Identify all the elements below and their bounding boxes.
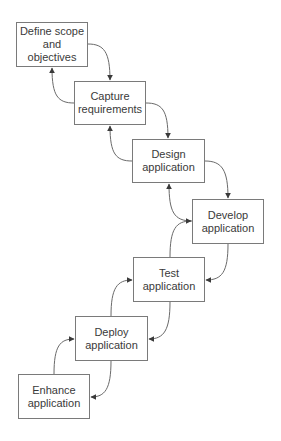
arrow-deploy-to-test [111,280,132,316]
step-develop-application: Develop application [192,199,264,244]
step-enhance-application: Enhance application [18,374,90,419]
step-label: Develop application [202,209,255,235]
arrow-design-to-develop [205,161,228,198]
arrow-develop-to-test [206,244,228,280]
step-label: Enhance application [28,384,81,410]
arrow-define-to-capture [88,44,110,80]
arrow-develop-to-design [169,184,192,221]
step-label: Deploy application [85,326,138,352]
arrow-test-to-develop [170,221,191,257]
arrow-enhance-to-deploy [54,339,74,374]
arrow-deploy-to-enhance [91,361,111,397]
step-capture-requirements: Capture requirements [74,81,146,125]
step-deploy-application: Deploy application [75,316,148,361]
step-define-scope: Define scope and objectives [16,22,88,67]
arrow-capture-to-define [52,68,74,103]
step-test-application: Test application [133,257,205,302]
step-label: Capture requirements [78,90,142,116]
step-label: Test application [143,267,196,293]
step-label: Define scope and objectives [17,25,87,64]
step-label: Design application [142,148,195,174]
arrow-design-to-capture [110,126,132,161]
step-design-application: Design application [132,139,205,183]
arrow-capture-to-design [146,103,168,138]
arrow-test-to-deploy [149,302,170,339]
